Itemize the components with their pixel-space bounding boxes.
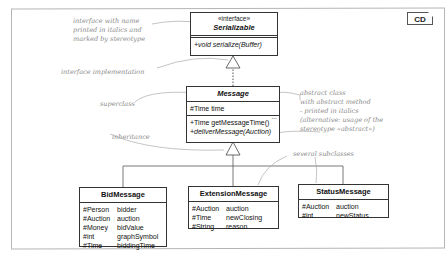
attribute-row: #Auctionauction	[83, 214, 163, 223]
class-name: BidMessage	[82, 190, 164, 200]
attribute-row: #Personbidder	[83, 205, 163, 214]
attributes-section: #Time time	[187, 102, 279, 116]
operations-section: +void serialize(Buffer)	[191, 37, 277, 51]
attribute-row: #Stringreason	[192, 222, 275, 231]
class-message: Message #Time time ... +Time getMessageT…	[186, 86, 280, 143]
note-superclass: superclass	[100, 100, 135, 109]
attributes-section: #Auctionauction #TimenewClosing #Stringr…	[189, 202, 278, 233]
operations-section: ... +Time getMessageTime() +deliverMessa…	[187, 116, 279, 138]
class-header: Message	[187, 87, 279, 102]
operation-abstract: +deliverMessage(Auction)	[190, 127, 276, 136]
attributes-section: #Auctionauction #intnewStatus	[299, 200, 388, 222]
class-status-message: StatusMessage #Auctionauction #intnewSta…	[298, 184, 389, 218]
generalization-arrowhead	[226, 142, 240, 155]
note-inheritance: inheritance	[112, 133, 150, 142]
class-header: StatusMessage	[299, 185, 388, 200]
class-header: «interface» Serializable	[191, 13, 277, 36]
attribute-row: #MoneybidValue	[83, 223, 163, 232]
note-several-subclasses: several subclasses	[293, 150, 354, 159]
note-interface: interface with name printed in italics a…	[73, 17, 145, 44]
class-name: ExtensionMessage	[191, 189, 276, 199]
class-serializable: «interface» Serializable +void serialize…	[190, 12, 278, 56]
attribute-row: #Auctionauction	[302, 202, 385, 211]
attribute-row: #intnewStatus	[302, 211, 385, 220]
realization-arrowhead	[226, 56, 240, 68]
class-name: Message	[189, 89, 277, 99]
class-name: Serializable	[193, 23, 275, 33]
attribute: #Time time	[190, 104, 276, 113]
class-header: ExtensionMessage	[189, 187, 278, 202]
attribute-row: #TimebiddingTime	[83, 241, 163, 250]
class-name: StatusMessage	[301, 187, 386, 197]
operation: +void serialize(Buffer)	[194, 40, 274, 49]
stereotype-label: «interface»	[193, 15, 275, 23]
class-bid-message: BidMessage #Personbidder #Auctionauction…	[79, 187, 167, 247]
class-header: BidMessage	[80, 188, 166, 203]
class-extension-message: ExtensionMessage #Auctionauction #Timene…	[188, 186, 279, 229]
more-indicator: ...	[271, 112, 277, 121]
operation: +Time getMessageTime()	[190, 118, 276, 127]
attribute-row: #TimenewClosing	[192, 213, 275, 222]
note-abstract-class: abstract class with abstract method - pr…	[300, 89, 383, 134]
note-interface-implementation: interface implementation	[61, 68, 144, 77]
attribute-row: #Auctionauction	[192, 204, 275, 213]
attributes-section: #Personbidder #Auctionauction #MoneybidV…	[80, 203, 166, 252]
attribute-row: #intgraphSymbol	[83, 232, 163, 241]
